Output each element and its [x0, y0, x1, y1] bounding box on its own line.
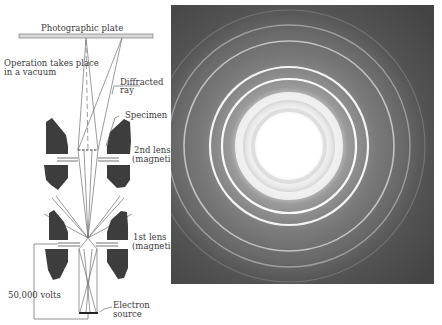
second-lens-gap — [57, 158, 119, 161]
diffracted-ray-leader — [112, 86, 114, 94]
label-electron-2: source — [113, 310, 142, 319]
beam-lines-lower — [79, 238, 97, 312]
label-vacuum-2: in a vacuum — [4, 68, 56, 77]
label-diffracted-2: ray — [120, 86, 134, 95]
figure: Photographic plate Operation takes place… — [0, 0, 442, 325]
label-photographic-plate: Photographic plate — [41, 24, 123, 33]
label-specimen: Specimen — [125, 111, 167, 120]
source-leader — [100, 307, 112, 312]
first-lens — [45, 210, 128, 280]
first-lens-gap — [58, 243, 118, 246]
photographic-plate — [19, 34, 153, 38]
diffraction-photograph — [171, 5, 434, 284]
diffraction-rings — [171, 5, 434, 284]
label-voltage: 50,000 volts — [8, 291, 61, 300]
